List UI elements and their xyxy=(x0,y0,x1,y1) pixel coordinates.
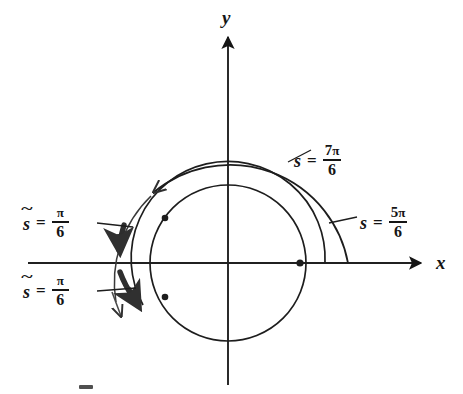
upper-bold-arc-arrow xyxy=(119,234,120,252)
tilde-accent: ~ xyxy=(21,202,32,217)
dot-upper-left xyxy=(162,215,169,222)
dot-on-x-axis xyxy=(296,259,303,266)
spiral-arc-length-figure: y x s = 7π 6 s = 5π 6 ~s = π 6 ~s xyxy=(0,0,463,394)
y-axis-label: y xyxy=(222,8,230,27)
label-variable-s-tilde: ~s xyxy=(23,281,30,301)
fraction-denominator: 6 xyxy=(54,223,66,240)
label-s-tilde-equals-pi-over-6-upper: ~s = π 6 xyxy=(23,205,69,241)
label-s-equals-5pi-over-6: s = 5π 6 xyxy=(360,205,407,241)
label-variable-s-tilde: ~s xyxy=(23,213,30,233)
fraction-numerator: π xyxy=(55,273,66,289)
label-s-tilde-equals-pi-over-6-lower: ~s = π 6 xyxy=(23,273,69,309)
leader-to-5pi-6 xyxy=(329,217,357,223)
cropped-text-fragment xyxy=(79,385,93,389)
equals-sign: = xyxy=(373,214,383,231)
dot-lower-left xyxy=(162,294,169,301)
fraction-pi-over-6: π 6 xyxy=(52,205,69,241)
outer-spiral-tail-arrow xyxy=(112,292,121,316)
leader-upper-s-tilde xyxy=(97,223,133,227)
fraction-numerator: π xyxy=(55,205,66,221)
fraction-denominator: 6 xyxy=(326,161,338,178)
fraction-5pi-over-6: 5π 6 xyxy=(389,205,408,241)
fraction-denominator: 6 xyxy=(54,291,66,308)
fraction-numerator: 5π xyxy=(389,205,408,221)
fraction-pi-over-6: π 6 xyxy=(52,273,69,309)
tilde-accent: ~ xyxy=(21,270,32,285)
diagram-canvas xyxy=(0,0,463,394)
fraction-numerator: 7π xyxy=(323,143,342,159)
x-axis-label: x xyxy=(436,253,446,272)
label-variable-s: s xyxy=(360,214,367,232)
outer-spiral-arc xyxy=(154,165,348,263)
fraction-7pi-over-6: 7π 6 xyxy=(323,143,342,179)
label-s-equals-7pi-over-6: s = 7π 6 xyxy=(294,143,341,179)
label-variable-s: s xyxy=(294,152,301,170)
equals-sign: = xyxy=(36,214,46,231)
equals-sign: = xyxy=(307,152,317,169)
fraction-denominator: 6 xyxy=(392,223,404,240)
equals-sign: = xyxy=(36,282,46,299)
